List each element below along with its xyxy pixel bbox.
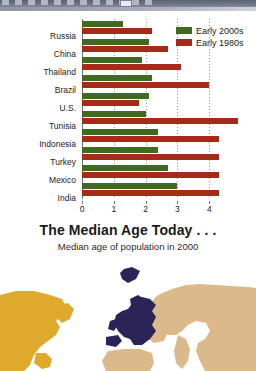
category-label-turkey: Turkey <box>0 158 76 167</box>
bar-indonesia-early1980s <box>82 136 219 142</box>
legend-label-early-1980s: Early 1980s <box>196 38 244 48</box>
chart-bar-group <box>82 129 222 144</box>
legend-swatch-icon-green <box>176 27 192 34</box>
legend-label-early-2000s: Early 2000s <box>196 26 244 36</box>
x-tick-label-1: 1 <box>111 204 116 214</box>
bar-tunisia-early1980s <box>82 118 238 124</box>
bar-china-early1980s <box>82 46 168 52</box>
chart-bar-group <box>82 111 222 126</box>
bar-brazil-early1980s <box>82 82 209 88</box>
x-tick-label-3: 3 <box>175 204 180 214</box>
map-region-central-america <box>34 353 52 369</box>
chart-bar-group <box>82 75 222 90</box>
category-label-russia: Russia <box>0 32 76 41</box>
legend-item-early-1980s: Early 1980s <box>176 37 256 48</box>
bar-turkey-early2000s <box>82 147 158 153</box>
chart-bar-group <box>82 183 222 198</box>
world-map-svg <box>0 265 256 371</box>
map-region-north-america <box>0 291 66 371</box>
world-map <box>0 265 256 371</box>
category-label-india: India <box>0 194 76 203</box>
map-region-iberia <box>106 335 122 347</box>
bar-russia-early2000s <box>82 21 123 27</box>
bar-tunisia-early2000s <box>82 111 146 117</box>
bar-china-early2000s <box>82 39 149 45</box>
bar-us-early1980s <box>82 100 139 106</box>
category-label-mexico: Mexico <box>0 176 76 185</box>
map-region-greenland <box>120 267 140 283</box>
x-tick-label-4: 4 <box>207 204 212 214</box>
bar-russia-early1980s <box>82 28 152 34</box>
chart-bar-group <box>82 93 222 108</box>
map-region-north-america-east <box>56 303 74 323</box>
x-tick-label-0: 0 <box>80 204 85 214</box>
bar-india-early2000s <box>82 183 177 189</box>
bar-indonesia-early2000s <box>82 129 158 135</box>
chart-bar-group <box>82 165 222 180</box>
window-title-bar[interactable] <box>0 0 256 11</box>
bar-mexico-early2000s <box>82 165 168 171</box>
chart-category-labels: RussiaChinaThailandBrazilU.S.TunisiaIndo… <box>0 30 80 210</box>
chart-legend: Early 2000s Early 1980s <box>176 25 256 49</box>
x-tick-label-2: 2 <box>143 204 148 214</box>
map-region-asia-south <box>174 335 190 369</box>
category-label-us: U.S. <box>0 104 76 113</box>
map-region-africa-north <box>102 349 154 371</box>
map-region-uk <box>108 319 118 331</box>
chart-bar-group <box>82 57 222 72</box>
category-label-tunisia: Tunisia <box>0 122 76 131</box>
chart-x-axis: 01234 <box>82 201 222 215</box>
legend-item-early-2000s: Early 2000s <box>176 25 256 36</box>
legend-swatch-icon-red <box>176 39 192 46</box>
bar-turkey-early1980s <box>82 154 219 160</box>
category-label-thailand: Thailand <box>0 68 76 77</box>
bar-brazil-early2000s <box>82 75 152 81</box>
median-age-section: The Median Age Today . . . Median age of… <box>0 222 256 252</box>
bar-thailand-early2000s <box>82 57 142 63</box>
section-subtitle: Median age of population in 2000 <box>0 241 256 252</box>
bar-india-early1980s <box>82 190 219 196</box>
bar-mexico-early1980s <box>82 172 219 178</box>
title-bar-tab-icon <box>120 0 132 7</box>
category-label-indonesia: Indonesia <box>0 140 76 149</box>
fertility-bar-chart: RussiaChinaThailandBrazilU.S.TunisiaIndo… <box>0 11 256 213</box>
infographic-page: RussiaChinaThailandBrazilU.S.TunisiaIndo… <box>0 0 256 371</box>
bar-us-early2000s <box>82 93 149 99</box>
category-label-china: China <box>0 50 76 59</box>
section-title: The Median Age Today . . . <box>0 222 256 238</box>
category-label-brazil: Brazil <box>0 86 76 95</box>
bar-thailand-early1980s <box>82 64 181 70</box>
chart-bar-group <box>82 147 222 162</box>
